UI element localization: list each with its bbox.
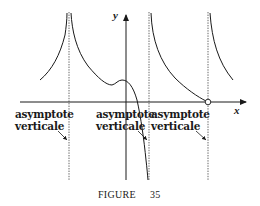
y-axis-label: y — [113, 9, 118, 21]
curve-branch-4 — [210, 13, 233, 80]
asymptote-lines — [69, 12, 208, 180]
curve-branch-3 — [151, 13, 206, 101]
asymptote-label-right: asymptote verticale — [151, 108, 210, 132]
curve-branch-1 — [40, 13, 67, 80]
open-circle-hole — [205, 99, 211, 105]
label-pointers — [58, 131, 206, 140]
function-graph — [0, 0, 260, 206]
figure-caption: FIGURE35 — [98, 189, 161, 200]
asymptote-label-left: asymptote verticale — [15, 108, 74, 132]
curve-branch-2 — [71, 13, 148, 180]
asymptote-label-middle: asymptote verticale — [96, 108, 155, 132]
x-axis-label: x — [234, 104, 240, 116]
